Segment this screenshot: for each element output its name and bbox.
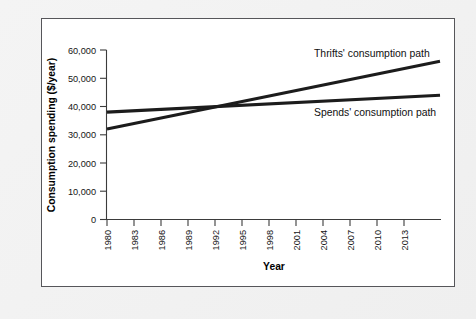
- y-tick-label-40000: 40,000: [68, 102, 96, 112]
- figure-panel: 0 10,000 20,000 30,000 40,000 50,000 60,…: [41, 18, 455, 287]
- y-tick-label-60000: 60,000: [68, 46, 96, 56]
- spends-consumption-path-label: Spends' consumption path: [314, 107, 436, 118]
- x-tick-label-2013: 2013: [400, 230, 410, 250]
- page-background: 0 10,000 20,000 30,000 40,000 50,000 60,…: [0, 0, 476, 319]
- x-axis-tick-labels: 1980 1983 1986 1989 1992 1995 1998 2001 …: [103, 230, 410, 250]
- y-axis-ticks: [100, 50, 107, 220]
- x-tick-label-1983: 1983: [130, 230, 140, 250]
- x-tick-label-1992: 1992: [211, 230, 221, 250]
- y-tick-label-30000: 30,000: [68, 130, 96, 140]
- x-tick-label-2010: 2010: [373, 230, 383, 250]
- x-tick-label-1980: 1980: [103, 230, 113, 250]
- x-axis-ticks: [107, 220, 404, 227]
- x-tick-label-2001: 2001: [292, 230, 302, 250]
- y-tick-label-0: 0: [91, 215, 96, 225]
- y-tick-label-50000: 50,000: [68, 74, 96, 84]
- y-axis-title: Consumption spending ($/year): [46, 58, 57, 212]
- consumption-paths-line-chart: 0 10,000 20,000 30,000 40,000 50,000 60,…: [42, 19, 454, 286]
- x-tick-label-1998: 1998: [265, 230, 275, 250]
- y-tick-label-10000: 10,000: [68, 187, 96, 197]
- x-tick-label-2004: 2004: [319, 230, 329, 250]
- x-tick-label-1986: 1986: [157, 230, 167, 250]
- x-tick-label-1995: 1995: [238, 230, 248, 250]
- thrifts-consumption-path-line: [107, 61, 440, 129]
- y-axis-tick-labels: 0 10,000 20,000 30,000 40,000 50,000 60,…: [68, 46, 96, 226]
- x-tick-label-2007: 2007: [346, 230, 356, 250]
- y-tick-label-20000: 20,000: [68, 159, 96, 169]
- x-tick-label-1989: 1989: [184, 230, 194, 250]
- x-axis-title: Year: [263, 261, 285, 272]
- thrifts-consumption-path-label: Thrifts' consumption path: [314, 48, 430, 59]
